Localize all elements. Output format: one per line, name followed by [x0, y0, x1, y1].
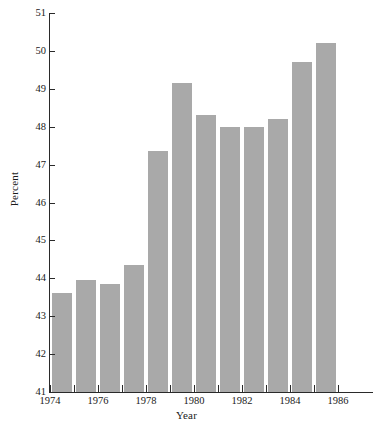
bar: [220, 127, 240, 392]
y-tick-label: 45: [6, 235, 46, 245]
x-tick: [194, 385, 195, 393]
x-tick: [338, 385, 339, 393]
bar: [316, 43, 336, 392]
bar: [148, 151, 168, 392]
x-tick: [170, 385, 171, 393]
x-tick-label: 1980: [172, 395, 216, 407]
x-tick: [146, 385, 147, 393]
x-tick: [218, 385, 219, 393]
x-tick: [122, 385, 123, 393]
y-tick-label: 43: [6, 311, 46, 321]
x-tick-label: 1974: [28, 395, 72, 407]
x-tick: [242, 385, 243, 393]
y-tick-label: 50: [6, 46, 46, 56]
bar: [76, 280, 96, 392]
x-tick-label: 1982: [220, 395, 264, 407]
y-tick-label: 47: [6, 160, 46, 170]
y-tick-label: 48: [6, 122, 46, 132]
y-tick: [50, 316, 55, 317]
y-tick-label: 49: [6, 84, 46, 94]
y-tick: [50, 278, 55, 279]
x-tick: [314, 385, 315, 393]
bar: [52, 293, 72, 392]
y-tick: [50, 89, 55, 90]
x-axis-title: Year: [0, 409, 373, 421]
bar: [292, 62, 312, 392]
bar: [172, 83, 192, 392]
x-tick: [290, 385, 291, 393]
x-tick-label: 1984: [268, 395, 312, 407]
x-tick-label: 1976: [76, 395, 120, 407]
y-tick-label: 44: [6, 273, 46, 283]
bar: [268, 119, 288, 392]
y-tick: [50, 51, 55, 52]
plot-area: [0, 0, 373, 427]
bar: [100, 284, 120, 392]
bar: [124, 265, 144, 392]
x-tick: [266, 385, 267, 393]
y-tick: [50, 13, 55, 14]
y-tick: [50, 127, 55, 128]
x-tick-label: 1986: [316, 395, 360, 407]
bar-chart: Percent 4142434445464748495051 197419761…: [0, 0, 373, 427]
x-tick: [74, 385, 75, 393]
y-tick-label: 42: [6, 349, 46, 359]
y-tick: [50, 203, 55, 204]
y-tick: [50, 240, 55, 241]
bar: [244, 127, 264, 392]
bar: [196, 115, 216, 392]
y-tick-label: 51: [6, 8, 46, 18]
y-tick: [50, 354, 55, 355]
y-tick: [50, 165, 55, 166]
x-tick: [98, 385, 99, 393]
x-tick: [50, 385, 51, 393]
y-tick-label: 46: [6, 198, 46, 208]
x-tick-label: 1978: [124, 395, 168, 407]
